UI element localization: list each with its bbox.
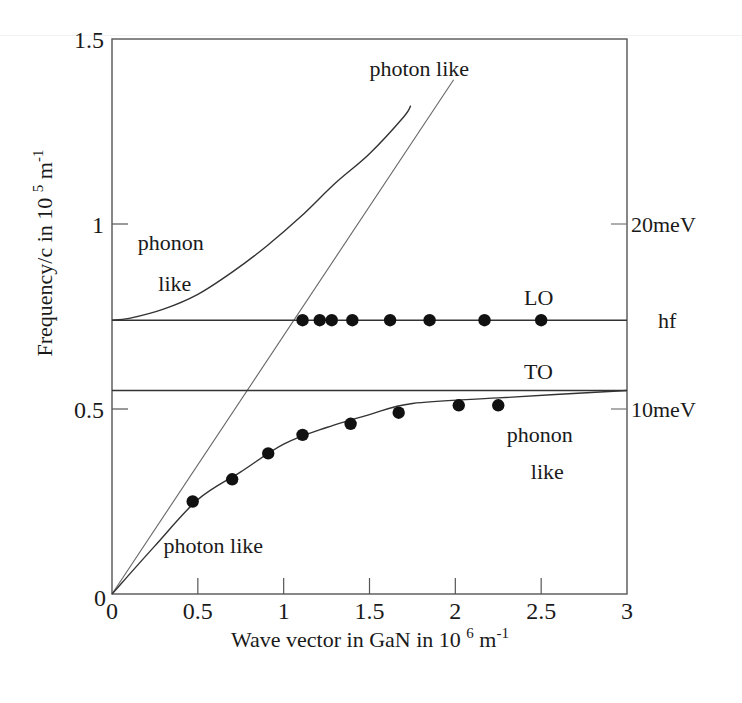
y-axis-label: Frequency/c in 10 5 m-1 (23, 150, 57, 357)
polariton-dispersion-chart: 00.511.522.5300.511.510meV20meVhf photon… (0, 0, 742, 703)
data-point (423, 314, 435, 326)
annotation-bottom: photon like (164, 533, 264, 558)
series-lower-branch-measured (186, 399, 504, 508)
annotation-layer: photon likephononlikeLOTOphononlikephoto… (138, 56, 573, 558)
data-point (296, 314, 308, 326)
annotation-upper_left_2: like (158, 271, 191, 296)
y-tick-label: 1.5 (74, 27, 104, 53)
data-point (262, 447, 274, 459)
annotation-to: TO (524, 359, 553, 384)
annotation-lower_right_2: like (531, 459, 564, 484)
x-tick-label: 2 (449, 598, 461, 624)
series-upper-polariton-branch (112, 106, 411, 321)
x-tick-label: 0 (106, 598, 118, 624)
y-tick-label: 1 (92, 212, 104, 238)
x-tick-label: 1.5 (355, 598, 385, 624)
data-point (392, 407, 404, 419)
y-tick-label: 0 (94, 585, 106, 611)
right-axis-label: 20meV (631, 212, 696, 237)
right-axis-label: 10meV (631, 397, 696, 422)
data-point (296, 429, 308, 441)
series-lower-polariton-branch (112, 391, 627, 595)
data-point (346, 314, 358, 326)
x-tick-label: 3 (621, 598, 633, 624)
annotation-upper_left_1: phonon (138, 230, 204, 255)
marker-layer (186, 314, 547, 508)
annotation-lower_right_1: phonon (507, 422, 573, 447)
data-point (384, 314, 396, 326)
series-photon-line-light-in-vacuum-medium (112, 80, 454, 594)
data-point (535, 314, 547, 326)
annotation-lo: LO (524, 285, 553, 310)
x-tick-label: 0.5 (183, 598, 213, 624)
data-point (492, 399, 504, 411)
data-point (344, 418, 356, 430)
plot-frame (112, 39, 627, 594)
data-point (186, 495, 198, 507)
plot-border (112, 39, 627, 594)
annotation-top: photon like (370, 56, 470, 81)
right-axis-label: hf (658, 308, 677, 333)
data-point (314, 314, 326, 326)
data-point (478, 314, 490, 326)
data-point (226, 473, 238, 485)
y-tick-label: 0.5 (74, 397, 104, 423)
x-tick-label: 2.5 (526, 598, 556, 624)
data-point (453, 399, 465, 411)
x-tick-label: 1 (278, 598, 290, 624)
series-layer (112, 80, 627, 594)
data-point (326, 314, 338, 326)
